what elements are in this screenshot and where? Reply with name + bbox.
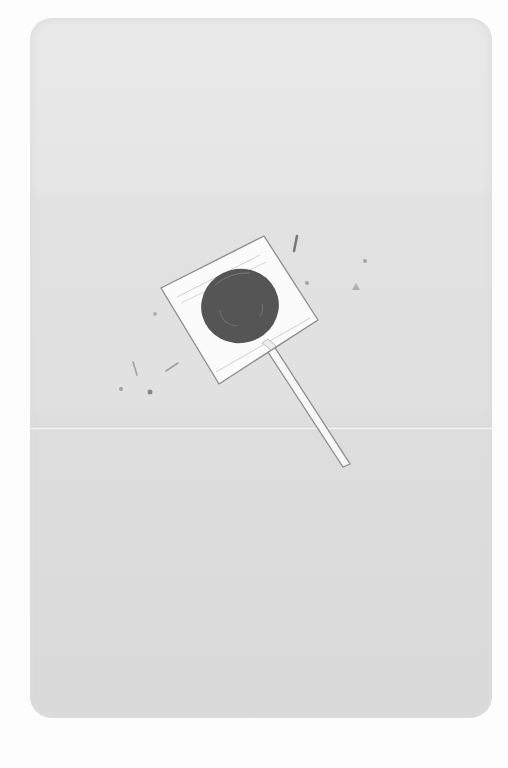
speck-triangle (352, 283, 360, 290)
lollipop-stick (262, 340, 350, 467)
speck-dash (166, 363, 178, 371)
speck-dash (294, 236, 297, 251)
speck-dash (133, 362, 137, 375)
speck-dot (305, 281, 309, 285)
illustration-canvas (0, 0, 508, 768)
speck-dot (148, 390, 153, 395)
speck-dot (153, 312, 157, 316)
lollipop-illustration (0, 0, 508, 768)
speck-dot (363, 259, 367, 263)
speck-dot (119, 387, 123, 391)
